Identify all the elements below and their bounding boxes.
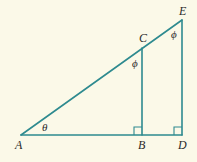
angle-label-phi-C: ϕ [132, 58, 138, 69]
right-angle-marker-D [174, 127, 182, 135]
point-label-A: A [15, 139, 22, 151]
point-label-E: E [179, 5, 186, 17]
right-angle-marker-B [134, 127, 142, 135]
segment-AE [21, 20, 182, 135]
point-label-C: C [139, 32, 147, 44]
angle-label-theta: θ [42, 122, 47, 133]
similar-triangles-diagram [0, 0, 197, 162]
angle-label-phi-E: ϕ [171, 29, 177, 40]
point-label-D: D [178, 139, 187, 151]
point-label-B: B [138, 139, 145, 151]
